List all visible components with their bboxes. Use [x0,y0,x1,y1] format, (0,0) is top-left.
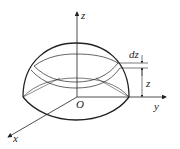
z-height-label: z [145,77,151,89]
z-axis-label: z [80,9,86,21]
generator-line-right [96,78,129,97]
generator-line-left [23,78,60,97]
origin-label: O [76,98,84,110]
slice-ring-top [34,54,118,66]
y-axis-label: y [153,100,159,112]
x-axis [8,97,77,137]
dz-label: dz [129,48,140,60]
slice-ring-upper-front [34,63,118,82]
hemisphere-diagram: z dz z y O x [0,0,180,149]
base-ellipse-back [23,78,129,97]
x-axis-label: x [12,132,18,144]
